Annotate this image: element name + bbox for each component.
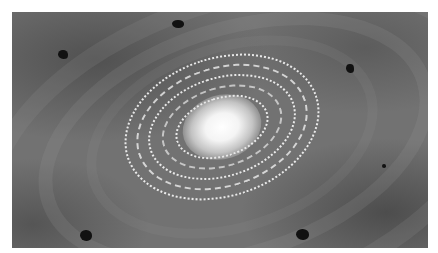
dark-blob (172, 20, 184, 28)
dark-blob (58, 50, 68, 59)
dark-blob (382, 164, 386, 168)
dark-blob (296, 229, 309, 240)
galaxy-image (12, 12, 428, 248)
dark-blob (80, 230, 92, 241)
dark-blob (346, 64, 354, 73)
